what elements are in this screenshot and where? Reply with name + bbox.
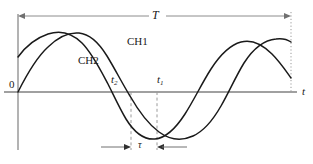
- period-arrowhead-right: [284, 13, 291, 19]
- t1-subscript: 1: [160, 79, 164, 87]
- tau-arrowhead-right-pointing: [124, 144, 131, 150]
- t1-crossing-label: t1: [157, 74, 164, 85]
- ch1-curve-label: CH1: [127, 36, 148, 47]
- t2-subscript: 2: [114, 79, 118, 87]
- x-axis-label: t: [302, 86, 305, 97]
- ch2-waveform-curve: [18, 33, 291, 139]
- ch2-curve-label: CH2: [78, 55, 99, 66]
- t2-crossing-label: t2: [111, 74, 118, 85]
- period-label: T: [152, 9, 159, 21]
- ch1-waveform-curve: [18, 32, 291, 139]
- tau-dimension: [101, 144, 187, 150]
- tau-label: τ: [138, 140, 142, 150]
- waveform-figure: T t 0 CH1 CH2 t2 t1 τ: [0, 0, 313, 164]
- origin-label: 0: [9, 79, 15, 90]
- period-arrowhead-left: [18, 13, 25, 19]
